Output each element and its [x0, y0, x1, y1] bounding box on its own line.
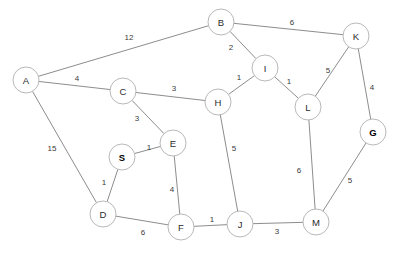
node-label-f: F [178, 222, 184, 233]
graph-edge-a-c [39, 81, 110, 89]
graph-edge-e-f [174, 156, 180, 214]
edge-weight-h-i: 1 [237, 73, 242, 82]
edge-weight-l-m: 6 [297, 166, 302, 175]
graph-edge-b-i [230, 31, 256, 58]
graph-node-j[interactable]: J [227, 211, 253, 237]
edge-weight-s-e: 1 [147, 143, 152, 152]
node-label-g: G [369, 127, 376, 138]
edge-weight-i-l: 1 [287, 77, 292, 86]
node-label-j: J [238, 219, 243, 230]
graph-node-i[interactable]: I [252, 55, 278, 81]
graph-node-s[interactable]: S [109, 144, 135, 170]
graph-node-k[interactable]: K [343, 23, 369, 49]
graph-node-h[interactable]: H [205, 89, 231, 115]
node-label-i: I [264, 63, 267, 74]
graph-node-e[interactable]: E [160, 130, 186, 156]
graph-node-a[interactable]: A [13, 67, 39, 93]
graph-node-m[interactable]: M [303, 209, 329, 235]
edge-weight-b-i: 2 [229, 43, 234, 52]
graph-node-c[interactable]: C [110, 78, 136, 104]
edge-weight-b-k: 6 [290, 18, 295, 27]
graph-edge-a-b [38, 26, 208, 77]
edge-weight-k-g: 4 [370, 83, 375, 92]
graph-node-f[interactable]: F [168, 214, 194, 240]
edge-weight-k-l: 5 [326, 66, 331, 75]
graph-edge-d-f [116, 216, 168, 225]
graph-node-b[interactable]: B [208, 9, 234, 35]
graph-node-g[interactable]: G [360, 119, 386, 145]
graph-edge-j-m [253, 222, 303, 223]
node-label-h: H [215, 97, 222, 108]
node-label-m: M [312, 217, 320, 228]
node-label-k: K [353, 31, 360, 42]
graph-edge-g-m [323, 143, 366, 211]
graph-node-d[interactable]: D [90, 201, 116, 227]
edge-weight-c-h: 3 [172, 84, 177, 93]
graph-canvas: 1241526331164115154635 ABCDEFGHIJKLMS [0, 0, 396, 253]
graph-edge-b-k [234, 23, 343, 34]
edge-weight-c-e: 3 [135, 114, 140, 123]
node-label-c: C [120, 86, 127, 97]
graph-edge-h-j [220, 115, 237, 211]
node-label-s: S [119, 152, 125, 163]
edge-weight-e-f: 4 [170, 185, 175, 194]
graph-diagram: 1241526331164115154635 ABCDEFGHIJKLMS [0, 0, 396, 253]
edge-weight-a-d: 15 [48, 144, 57, 153]
nodes-layer: ABCDEFGHIJKLMS [13, 9, 386, 240]
graph-edge-a-d [32, 91, 96, 202]
graph-edge-l-m [309, 120, 315, 209]
edge-weight-g-m: 5 [348, 176, 353, 185]
edge-weight-s-d: 1 [102, 178, 107, 187]
graph-edge-f-j [194, 225, 227, 227]
graph-edge-h-i [229, 76, 255, 95]
edge-weight-a-c: 4 [75, 74, 80, 83]
edges-layer [32, 23, 370, 226]
edge-weight-a-b: 12 [125, 33, 134, 42]
node-label-b: B [218, 17, 224, 28]
node-label-a: A [23, 75, 30, 86]
edge-weight-d-f: 6 [141, 228, 146, 237]
edge-weight-h-j: 5 [232, 144, 237, 153]
graph-node-l[interactable]: L [295, 94, 321, 120]
node-label-l: L [305, 102, 310, 113]
node-label-d: D [100, 209, 107, 220]
graph-edge-s-d [107, 169, 118, 201]
node-label-e: E [170, 138, 176, 149]
graph-edge-k-l [315, 47, 348, 96]
edge-weight-f-j: 1 [210, 215, 215, 224]
edge-weight-j-m: 3 [275, 227, 280, 236]
graph-edge-c-h [136, 93, 205, 101]
